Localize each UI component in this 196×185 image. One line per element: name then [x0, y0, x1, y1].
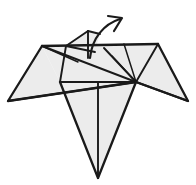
origami-diagram	[0, 0, 196, 185]
origami-figure-container	[0, 0, 196, 185]
